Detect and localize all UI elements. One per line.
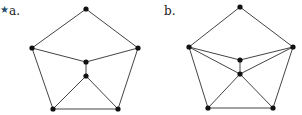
node-left [29, 45, 34, 50]
node-left [186, 44, 191, 49]
edge-mid-lower-bottom-right [86, 76, 118, 109]
node-top [237, 4, 242, 9]
edge-left-bottom-left [189, 47, 208, 108]
node-mid-lower [83, 73, 88, 78]
node-bottom-right [270, 105, 275, 110]
node-right [290, 44, 295, 49]
edge-right-bottom-right [118, 48, 138, 109]
node-top [83, 6, 88, 11]
edge-top-right [240, 7, 293, 47]
node-bottom-left [205, 105, 210, 110]
edge-right-mid-upper [86, 48, 138, 62]
edge-top-left [32, 9, 86, 48]
node-right [135, 45, 140, 50]
graph-a [29, 6, 140, 111]
node-mid-lower [237, 71, 242, 76]
edge-top-left [189, 7, 240, 47]
node-mid-upper [237, 57, 242, 62]
node-mid-upper [83, 59, 88, 64]
edge-mid-lower-bottom-right [240, 74, 273, 108]
edge-mid-lower-bottom-left [208, 74, 240, 108]
edge-mid-lower-bottom-left [53, 76, 86, 109]
edge-left-mid-upper [32, 48, 86, 62]
graph-b [186, 4, 295, 110]
node-bottom-left [50, 106, 55, 111]
edge-left-bottom-left [32, 48, 53, 109]
node-bottom-right [115, 106, 120, 111]
edge-left-mid-upper [189, 47, 240, 60]
edge-top-right [86, 9, 138, 48]
graph-diagrams [0, 0, 302, 115]
edge-right-mid-upper [240, 47, 293, 60]
